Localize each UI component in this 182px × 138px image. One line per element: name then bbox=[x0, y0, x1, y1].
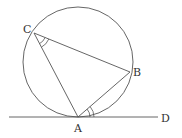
label-a: A bbox=[73, 122, 83, 135]
label-b: B bbox=[133, 66, 141, 79]
segment-ca bbox=[34, 33, 78, 117]
label-d: D bbox=[161, 112, 170, 125]
circle bbox=[23, 7, 133, 117]
segment-cb bbox=[34, 33, 130, 72]
angle-mark-c-inner bbox=[40, 38, 46, 44]
geometry-diagram: C B A D bbox=[0, 0, 182, 138]
label-c: C bbox=[23, 23, 31, 36]
angle-mark-c-outer bbox=[41, 39, 48, 47]
